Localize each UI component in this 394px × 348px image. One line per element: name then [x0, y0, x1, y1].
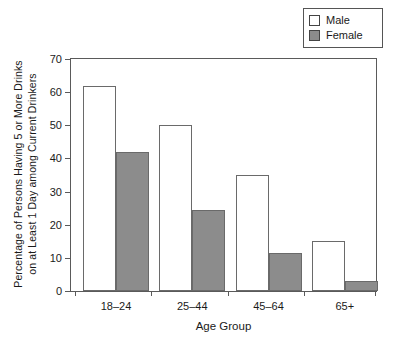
y-axis-title-line-1: Percentage of Persons Having 5 or More D… — [11, 52, 25, 296]
x-axis-tick-end — [375, 291, 376, 296]
bar-female-3 — [345, 281, 378, 291]
y-axis-tick-label: 40 — [50, 152, 62, 164]
y-axis-tick-label: 30 — [50, 186, 62, 198]
legend-swatch-female-icon — [309, 30, 320, 41]
chart-legend: Male Female — [303, 8, 383, 48]
y-axis-tick-label: 70 — [50, 53, 62, 65]
y-axis-tick — [65, 59, 71, 60]
x-axis-group-label-1: 25–44 — [177, 300, 208, 312]
x-axis-group-label-3: 65+ — [335, 300, 354, 312]
y-axis-tick — [65, 225, 71, 226]
legend-label-female: Female — [326, 29, 363, 42]
legend-entry-male: Male — [309, 13, 376, 28]
y-axis-tick-label: 20 — [50, 219, 62, 231]
x-axis-title: Age Group — [70, 320, 377, 332]
x-axis-tick — [228, 291, 229, 296]
bar-female-2 — [269, 253, 302, 291]
y-axis-tick-label: 10 — [50, 252, 62, 264]
bar-female-1 — [192, 210, 225, 291]
bar-male-2 — [236, 175, 269, 291]
plot-inner: 01020304050607018–2425–4445–6465+ — [71, 59, 376, 291]
x-axis-group-label-2: 45–64 — [253, 300, 284, 312]
x-axis-group-label-0: 18–24 — [101, 300, 132, 312]
bar-male-1 — [159, 125, 192, 291]
y-axis-tick — [65, 92, 71, 93]
legend-label-male: Male — [326, 14, 350, 27]
bar-male-3 — [312, 241, 345, 291]
y-axis-tick — [65, 258, 71, 259]
x-axis-tick — [151, 291, 152, 296]
y-axis-tick — [65, 291, 71, 292]
y-axis-tick-label: 50 — [50, 119, 62, 131]
legend-entry-female: Female — [309, 28, 376, 43]
chart-page: Male Female Percentage of Persons Having… — [0, 0, 394, 348]
y-axis-title: Percentage of Persons Having 5 or More D… — [8, 52, 42, 296]
x-axis-tick — [304, 291, 305, 296]
y-axis-tick — [65, 158, 71, 159]
bar-male-0 — [83, 86, 116, 291]
bar-female-0 — [116, 152, 149, 291]
y-axis-tick-label: 0 — [56, 285, 62, 297]
y-axis-tick-label: 60 — [50, 86, 62, 98]
plot-area: 01020304050607018–2425–4445–6465+ — [70, 58, 377, 292]
y-axis-tick — [65, 192, 71, 193]
y-axis-tick — [65, 125, 71, 126]
x-axis-tick — [75, 291, 76, 296]
legend-swatch-male-icon — [309, 15, 320, 26]
y-axis-title-line-2: on at Least 1 Day among Current Drinkers — [25, 52, 39, 296]
